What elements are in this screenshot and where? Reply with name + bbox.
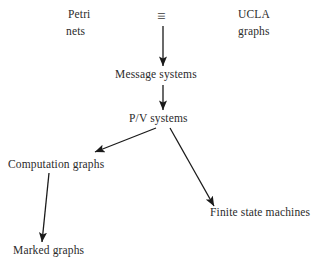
- identical-to-icon: ≡: [157, 9, 165, 24]
- node-ucla-graphs-line1: UCLA: [238, 8, 270, 21]
- node-petri-nets-line1: Petri: [68, 8, 90, 21]
- node-ucla-graphs: UCLA graphs: [238, 8, 270, 38]
- node-computation-graphs: Computation graphs: [8, 158, 104, 171]
- arrow-pv-systems-to-computation-graphs: [95, 128, 156, 152]
- node-finite-state-machines: Finite state machines: [210, 206, 310, 219]
- node-petri-nets-line2: nets: [66, 25, 90, 38]
- node-petri-nets: Petri nets: [68, 8, 90, 38]
- node-marked-graphs: Marked graphs: [13, 244, 84, 257]
- arrow-pv-systems-to-finite-state-machines: [170, 128, 214, 206]
- arrow-computation-graphs-to-marked-graphs: [42, 173, 49, 242]
- diagram-canvas: Petri nets ≡ UCLA graphs Message systems…: [0, 0, 317, 271]
- node-pv-systems: P/V systems: [129, 112, 188, 125]
- arrow-layer: [0, 0, 317, 271]
- node-message-systems: Message systems: [115, 68, 197, 81]
- node-ucla-graphs-line2: graphs: [238, 25, 270, 38]
